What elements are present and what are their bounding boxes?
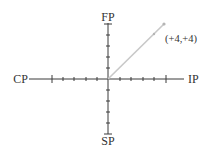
- bottom-axis-label: SP: [101, 134, 115, 148]
- top-axis-label: FP: [101, 10, 115, 24]
- vector-line: [108, 24, 164, 79]
- left-axis-label: CP: [13, 72, 28, 86]
- vector-point-marker: [153, 33, 155, 35]
- vector-point-label: (+4,+4): [165, 33, 197, 45]
- axes-diagram: FP SP CP IP (+4,+4): [0, 0, 213, 156]
- vector-endpoint: [162, 22, 165, 25]
- right-axis-label: IP: [188, 72, 199, 86]
